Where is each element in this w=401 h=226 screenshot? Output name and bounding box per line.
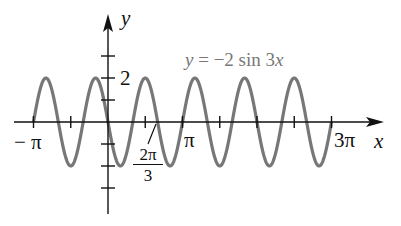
tick-label-2pi-over-3: 2π 3	[133, 146, 163, 184]
plot-area	[0, 0, 401, 226]
equation-label: y = −2 sin 3x	[185, 50, 283, 69]
tick-label-pi: π	[184, 130, 195, 151]
chart-figure: y x y = −2 sin 3x − π π 3π 2 2π 3	[0, 0, 401, 226]
tick-label-y-2: 2	[120, 68, 131, 89]
tick-label-3pi: 3π	[334, 130, 355, 151]
tick-label-neg-pi: − π	[14, 132, 42, 153]
tick-label-leader	[148, 124, 156, 144]
x-axis-label: x	[374, 131, 383, 152]
y-axis-label: y	[121, 8, 130, 29]
